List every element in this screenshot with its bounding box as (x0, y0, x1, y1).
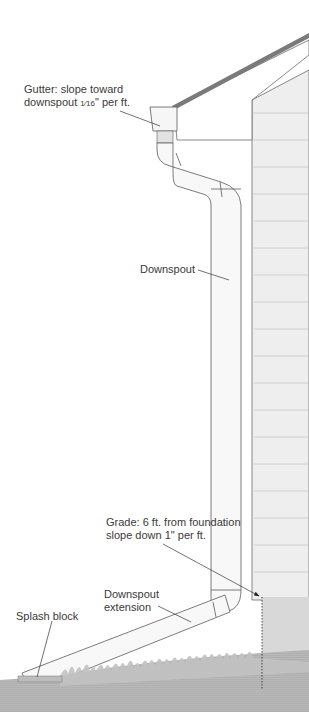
house-wall (252, 70, 309, 600)
gutter (150, 107, 177, 143)
gutter-label-line1: Gutter: slope toward (24, 83, 130, 96)
grade-label: Grade: 6 ft. from foundation slope down … (106, 516, 241, 542)
extension-label-line2: extension (104, 601, 159, 614)
grade-label-line2: slope down 1" per ft. (106, 529, 241, 542)
grade-label-line1: Grade: 6 ft. from foundation (106, 516, 241, 529)
splash-block-label-text: Splash block (16, 610, 78, 622)
downspout-label: Downspout (140, 263, 195, 276)
downspout-label-text: Downspout (140, 263, 195, 275)
splash-block (18, 676, 62, 682)
extension-label-line1: Downspout (104, 588, 159, 601)
gutter-label: Gutter: slope toward downspout 1⁄16" per… (24, 83, 130, 110)
splash-block-label: Splash block (16, 610, 78, 623)
gutter-label-prefix: downspout (24, 96, 80, 108)
gutter-label-fraction: 1⁄16 (80, 99, 95, 108)
gutter-label-line2: downspout 1⁄16" per ft. (24, 96, 130, 110)
gutter-label-suffix: " per ft. (95, 96, 130, 108)
extension-label: Downspout extension (104, 588, 159, 614)
